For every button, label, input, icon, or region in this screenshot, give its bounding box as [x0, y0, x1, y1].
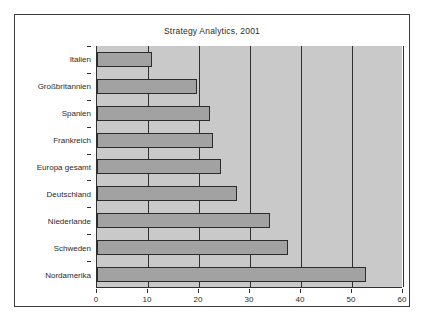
- y-axis-tick-label: Schweden: [54, 243, 91, 252]
- bar-row[interactable]: [97, 154, 402, 181]
- x-axis-tick-label: 40: [296, 295, 305, 304]
- bar[interactable]: [97, 79, 197, 94]
- y-axis-tick-label: Frankreich: [53, 136, 91, 145]
- bar[interactable]: [97, 133, 213, 148]
- y-axis-tick-label: Italien: [70, 55, 91, 64]
- x-axis-tick-label: 60: [398, 295, 407, 304]
- bar[interactable]: [97, 186, 237, 201]
- y-axis-tick: [87, 46, 91, 47]
- bar[interactable]: [97, 52, 152, 67]
- y-axis-tick: [87, 100, 91, 101]
- x-axis-labels: 0102030405060: [96, 289, 403, 307]
- x-axis-tick: [249, 289, 250, 293]
- chart-title: Strategy Analytics, 2001: [15, 26, 409, 36]
- bar-row[interactable]: [97, 261, 402, 288]
- y-axis-tick: [87, 234, 91, 235]
- bar-row[interactable]: [97, 100, 402, 127]
- x-axis-tick: [96, 289, 97, 293]
- y-axis-tick: [87, 127, 91, 128]
- bar-row[interactable]: [97, 207, 402, 234]
- x-axis-tick-label: 30: [245, 295, 254, 304]
- bar-row[interactable]: [97, 46, 402, 73]
- bar[interactable]: [97, 159, 221, 174]
- y-axis-tick-label: Niederlande: [48, 216, 91, 225]
- y-axis-tick-label: Großbritannien: [38, 82, 91, 91]
- x-axis-tick-label: 0: [94, 295, 98, 304]
- bar-row[interactable]: [97, 180, 402, 207]
- gridline: [403, 46, 404, 287]
- x-axis-tick-label: 20: [194, 295, 203, 304]
- y-axis-tick-label: Deutschland: [47, 189, 91, 198]
- bar-row[interactable]: [97, 73, 402, 100]
- x-axis-tick: [402, 289, 403, 293]
- bar-row[interactable]: [97, 234, 402, 261]
- bar[interactable]: [97, 240, 288, 255]
- x-axis-tick-label: 10: [143, 295, 152, 304]
- y-axis-tick-label: Nordamerika: [45, 270, 91, 279]
- bar[interactable]: [97, 267, 366, 282]
- bar-row[interactable]: [97, 127, 402, 154]
- x-axis-tick-label: 50: [347, 295, 356, 304]
- x-axis-tick: [300, 289, 301, 293]
- y-axis-tick-label: Spanien: [62, 109, 91, 118]
- y-axis-tick-label: Europa gesamt: [37, 163, 91, 172]
- bar[interactable]: [97, 213, 270, 228]
- x-axis-tick: [198, 289, 199, 293]
- x-axis-tick: [351, 289, 352, 293]
- y-axis-tick: [87, 73, 91, 74]
- plot-area: [96, 46, 402, 288]
- bar[interactable]: [97, 106, 210, 121]
- y-axis-tick: [87, 180, 91, 181]
- y-axis-tick: [87, 207, 91, 208]
- y-axis-tick: [87, 154, 91, 155]
- y-axis-tick: [87, 261, 91, 262]
- x-axis-tick: [147, 289, 148, 293]
- chart-frame: Strategy Analytics, 2001 ItalienGroßbrit…: [14, 14, 410, 307]
- y-axis-labels: ItalienGroßbritannienSpanienFrankreichEu…: [15, 46, 91, 288]
